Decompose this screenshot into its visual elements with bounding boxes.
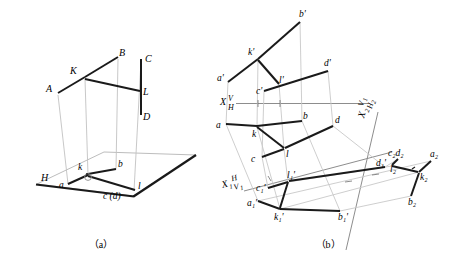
segment-c1-prime-l1-prime [268,182,288,188]
segment-c-prime-d-prime [264,71,328,91]
label-k: k [78,162,83,172]
segment-a-k [226,124,257,126]
axis-label-x-vh-H: H [227,103,235,112]
projection-drawing: A B K C L D a k b l c (d) H X V H X 1 H … [0,0,454,269]
label-b-prime: b' [299,9,307,19]
label-K: K [69,65,78,76]
label-l1-prime: l₁' [287,170,296,180]
figure-canvas: A B K C L D a k b l c (d) H X V H X 1 H … [0,0,454,269]
label-k1-prime: k₁' [274,212,285,222]
label-a: a [59,180,64,190]
projector-b-hv1 [302,121,340,211]
segment-kl [88,176,135,190]
segment-a1-prime-k1-prime [258,201,280,209]
label-l-prime: l' [279,75,285,85]
label-C: C [145,53,152,64]
caption-b: （b） [316,239,341,250]
projector-CD [134,61,141,191]
segment-k-prime-b-prime [258,22,300,59]
label-b2: b₂ [408,197,417,207]
band-tick-1 [345,181,352,182]
projector-d-vh [328,71,333,126]
panel-a-group: A B K C L D a k b l c (d) H [36,47,196,202]
segment-l-d [285,126,333,148]
label-a-h: a [216,120,221,130]
axis-label-x2-v1h2: X 2 V 1 H 2 [353,95,377,121]
segment-l1-prime-d1-prime [289,167,385,181]
label-c2d2: c₂d₂ [388,148,404,158]
label-B: B [119,47,125,58]
label-L: L [142,86,149,97]
label-k-prime: k' [248,47,255,57]
caption-a: （a） [89,239,113,250]
label-l-h: l [286,149,289,159]
panel-b-group: X V H X 1 H V 1 X 2 V 1 H 2 [216,9,439,250]
projectors-v1-h2 [258,159,431,211]
label-c-h: c [251,154,256,164]
axis-label-x-vh-V: V [228,94,234,103]
label-a1-prime: a₁' [247,198,258,208]
right-angle-marker-k2 [412,167,415,169]
projector-b-vh [300,22,302,121]
label-b: b [118,159,123,169]
projector-k1-h2 [280,172,419,209]
projector-l-vh [279,84,284,149]
segment-k-b [257,121,302,126]
segment-AK [58,77,85,93]
axis-label-x1-hv1: X 1 H V 1 [219,172,244,196]
axis-label-x-vh-X: X [219,96,227,107]
segment-k1-prime-l1-prime [280,182,288,208]
label-D: D [142,111,151,122]
label-d1-prime: d₁' [376,158,387,168]
h-plane-right-edge [134,155,197,197]
projector-A [58,95,68,184]
label-l2: l₂ [390,164,397,174]
label-a2: a₂ [430,149,439,159]
projectors-v-h [226,22,333,157]
segment-k-prime-l-prime [258,60,279,84]
segment-c-l [262,149,284,157]
point-marker-k [86,173,88,175]
label-b-h: b [303,111,308,121]
label-a-prime: a' [217,73,225,83]
segment-KL [85,79,140,91]
label-d-h: d [335,115,340,125]
label-H-plane: H [40,172,49,183]
axis-label-x1-sub2: 1 [239,184,244,192]
segment-a-prime-k-prime [228,59,258,82]
label-c1-prime: c₁' [256,183,267,193]
segment-k1-prime-b1-prime [280,209,340,211]
segment-KB [85,57,118,77]
label-k2: k₂ [420,172,428,182]
label-cd: c (d) [103,191,121,202]
label-l: l [138,181,141,191]
label-A: A [45,83,53,94]
label-k-h: k [252,129,257,139]
segment-k2-b2 [411,173,419,196]
segment-k-l [257,127,284,148]
label-d-prime: d' [324,58,332,68]
label-b1-prime: b₁' [338,212,349,222]
segment-kb [88,169,116,174]
label-c-prime: c' [256,86,263,96]
axis-label-x2-sub2: 1 [361,97,369,102]
axis-label-x2-sub3: 2 [370,99,378,105]
projector-b1-h2 [340,196,411,211]
